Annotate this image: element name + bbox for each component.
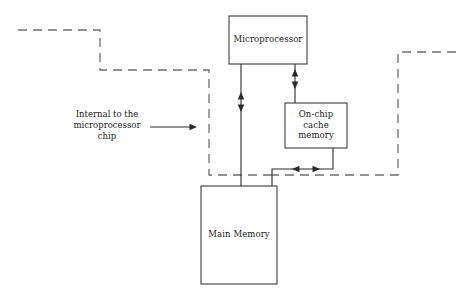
box-main-memory — [201, 186, 277, 284]
annotation-arrow — [150, 124, 197, 131]
annotation-internal-to-chip: Internal to the microprocessor chip — [66, 109, 148, 142]
connector-cache-main-memory — [272, 148, 333, 186]
diagram-canvas: Microprocessor On-chip cache memory Main… — [0, 0, 456, 297]
connector-microprocessor-cache — [292, 64, 299, 103]
box-microprocessor — [229, 16, 307, 64]
box-on-chip-cache-memory — [285, 103, 347, 148]
connector-microprocessor-main-memory — [238, 64, 245, 186]
diagram-vector-layer — [0, 0, 456, 297]
